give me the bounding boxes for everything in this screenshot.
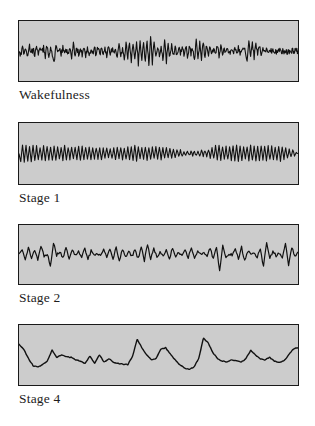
trace-label-stage-1: Stage 1 (19, 190, 61, 205)
trace-label-stage-4: Stage 4 (19, 391, 61, 406)
trace-label-stage-2: Stage 2 (19, 290, 61, 305)
trace-panel-stage-2 (18, 224, 299, 285)
trace-panel-stage-1 (18, 122, 299, 185)
eeg-trace-stage-4 (19, 325, 298, 385)
eeg-sleep-stage-figure: WakefulnessStage 1Stage 2Stage 4 (0, 0, 315, 426)
eeg-trace-path (19, 37, 298, 66)
trace-panel-wakefulness (18, 20, 299, 82)
eeg-trace-wakefulness (19, 21, 298, 81)
eeg-trace-stage-1 (19, 123, 298, 184)
trace-panel-stage-4 (18, 324, 299, 386)
eeg-trace-path (19, 338, 298, 369)
eeg-trace-stage-2 (19, 225, 298, 284)
eeg-trace-path (19, 243, 298, 271)
trace-label-wakefulness: Wakefulness (19, 87, 90, 102)
eeg-trace-path (19, 145, 298, 162)
